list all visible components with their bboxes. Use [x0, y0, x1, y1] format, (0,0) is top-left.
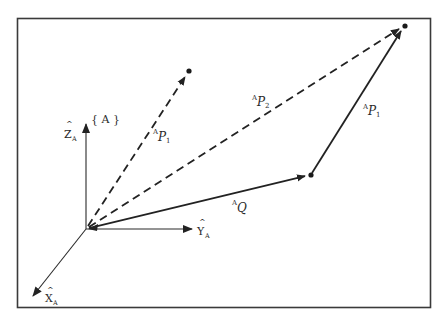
x-axis-sub: A [52, 299, 58, 307]
z-axis-main: Z [64, 128, 72, 141]
y-axis-label: ^ Y A [196, 217, 210, 240]
z-hat-glyph: ^ [66, 119, 73, 128]
frame-label: { A } [91, 113, 120, 126]
ap1-left-sub: 1 [166, 137, 170, 145]
x-axis-main: X [45, 292, 53, 305]
vector-diagram: { A } ^ Z A ^ Y A ^ X A A P 1 A P 2 [0, 0, 445, 323]
vector-ap2-dashed [89, 29, 399, 227]
point-q-tip [308, 172, 313, 177]
point-p1-tip [186, 68, 191, 73]
labels: { A } ^ Z A ^ Y A ^ X A A P 1 A P 2 [45, 94, 380, 307]
diagram-border [18, 19, 431, 308]
y-axis-sub: A [204, 232, 210, 240]
x-axis [33, 229, 86, 296]
ap2-sub: 2 [265, 102, 269, 110]
x-axis-label: ^ X A [45, 285, 58, 307]
label-ap1-left: A P 1 [152, 128, 170, 145]
label-aq: A Q [231, 199, 247, 215]
ap1-right-sub: 1 [376, 111, 380, 119]
points [186, 23, 407, 177]
z-axis-sub: A [71, 135, 77, 143]
vector-ap1-solid [312, 31, 401, 173]
point-p2-tip [402, 23, 407, 28]
aq-main: Q [237, 201, 247, 215]
vector-aq [89, 176, 305, 228]
label-ap2: A P 2 [251, 94, 269, 110]
z-axis-label: ^ Z A [64, 119, 77, 143]
label-ap1-right: A P 1 [362, 103, 380, 119]
frame-axes [33, 124, 192, 296]
y-axis-main: Y [196, 225, 205, 238]
vector-ap1-dashed [88, 77, 185, 226]
